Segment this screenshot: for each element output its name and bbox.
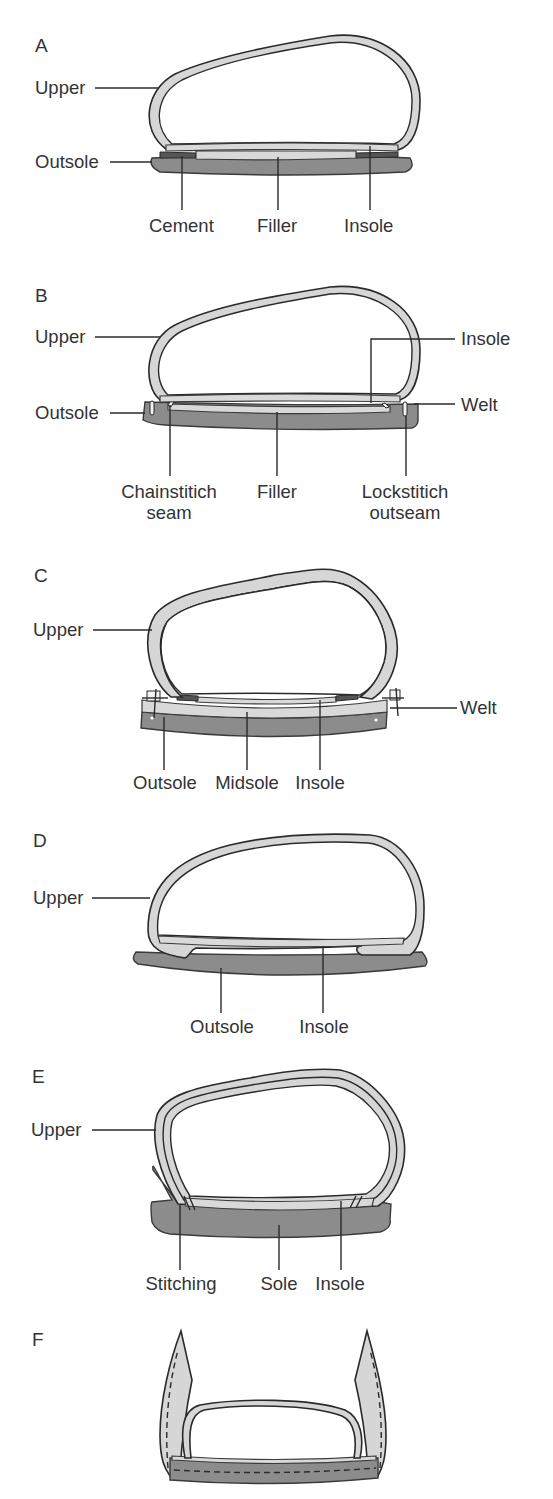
label-chainstitch-line2-b: seam: [146, 502, 191, 523]
label-insole-d: Insole: [299, 1016, 348, 1037]
panel-f: F: [32, 1329, 386, 1484]
stitch-left-outsole-b: [150, 401, 154, 415]
insole-shape-b: [160, 394, 400, 402]
label-outsole-a: Outsole: [35, 151, 99, 172]
label-insole-a: Insole: [344, 215, 393, 236]
insole-shape-a: [166, 143, 398, 151]
panel-letter-f: F: [32, 1329, 44, 1350]
label-upper-e: Upper: [31, 1119, 81, 1140]
label-lockstitch-line2-b: outseam: [370, 502, 441, 523]
label-stitching-e: Stitching: [146, 1273, 217, 1294]
label-upper-b: Upper: [35, 326, 85, 347]
panel-letter-d: D: [33, 830, 47, 851]
cement-shape-right-a: [356, 152, 398, 158]
filler-shape-a: [196, 151, 356, 160]
insole-shape-c: [196, 697, 336, 704]
welt-block-left-c: [147, 691, 160, 701]
label-upper-c: Upper: [33, 619, 83, 640]
label-filler-b: Filler: [257, 481, 297, 502]
panel-b: B Upper Insole Outsole Welt Chainstitich…: [35, 285, 510, 523]
label-upper-a: Upper: [35, 77, 85, 98]
label-insole-e: Insole: [315, 1273, 364, 1294]
label-cement-a: Cement: [149, 215, 214, 236]
label-welt-b: Welt: [461, 394, 498, 415]
panel-c: C Upper Welt Outsole Midsole Insole: [33, 565, 497, 793]
label-outsole-c: Outsole: [133, 772, 197, 793]
panel-letter-a: A: [35, 35, 48, 56]
panel-d: D Upper Outsole Insole: [33, 830, 427, 1037]
label-upper-d: Upper: [33, 887, 83, 908]
stitch-hole-right-c: [374, 718, 377, 721]
label-lockstitch-line1-b: Lockstitich: [362, 481, 448, 502]
stitch-hole-left-c: [150, 716, 153, 719]
label-insole-b: Insole: [461, 328, 510, 349]
label-midsole-c: Midsole: [215, 772, 279, 793]
label-chainstitch-line1-b: Chainstitich: [121, 481, 217, 502]
label-outsole-d: Outsole: [190, 1016, 254, 1037]
upper-interior-a: [159, 42, 412, 144]
label-outsole-b: Outsole: [35, 402, 99, 423]
panel-letter-b: B: [35, 285, 48, 306]
panel-a: A Upper Outsole Cement Filler Insole: [35, 35, 420, 236]
stitch-right-outsole-b: [403, 402, 407, 416]
label-filler-a: Filler: [257, 215, 297, 236]
upper-interior-b: [159, 294, 412, 395]
inner-upper-f: [183, 1400, 362, 1458]
panel-letter-e: E: [32, 1066, 45, 1087]
panel-e: E Upper Stitching Sole Insole: [31, 1066, 405, 1294]
label-sole-e: Sole: [260, 1273, 297, 1294]
cement-shape-left-a: [160, 152, 196, 158]
label-welt-c: Welt: [460, 697, 497, 718]
upper-interior-e: [171, 1085, 390, 1197]
panel-letter-c: C: [34, 565, 48, 586]
label-insole-c: Insole: [295, 772, 344, 793]
shoe-construction-diagram: A Upper Outsole Cement Filler Insole B: [0, 0, 553, 1499]
